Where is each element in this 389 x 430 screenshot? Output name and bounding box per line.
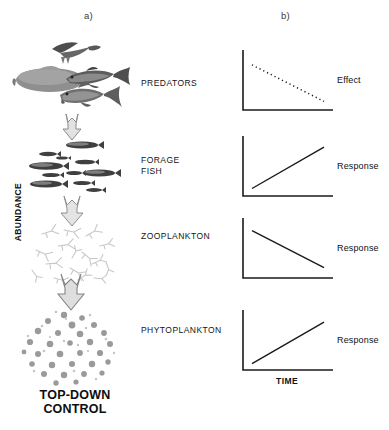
chart-label-effect: Effect — [337, 75, 361, 85]
x-axis-label-time: TIME — [241, 376, 333, 386]
chart-label-response-forage-fish: Response — [337, 161, 379, 171]
arrow-zooplankton-to-phytoplankton — [52, 272, 90, 312]
phytoplankton-illustration — [18, 307, 128, 387]
trophic-label-predators: PREDATORS — [141, 78, 197, 89]
chart-label-response-phytoplankton: Response — [337, 335, 379, 345]
arrow-forage-fish-to-zooplankton — [55, 194, 89, 228]
chart-predators-effect — [241, 50, 333, 112]
forage-fish-illustration — [22, 137, 128, 195]
chart-forage-fish-response — [241, 136, 333, 198]
chart-label-response-zooplankton: Response — [337, 243, 379, 253]
chart-phytoplankton-response — [241, 310, 333, 372]
predators-illustration — [10, 33, 136, 115]
y-axis-label-abundance: ABUNDANCE — [13, 172, 23, 252]
trophic-label-zooplankton: ZOOPLANKTON — [141, 231, 210, 242]
series-line-1 — [252, 147, 324, 188]
panel-letter-a: a) — [84, 10, 93, 21]
series-line-2 — [252, 231, 324, 268]
trophic-cascade-figure: a) b) — [0, 0, 389, 430]
trophic-label-forage-fish: FORAGE FISH — [141, 155, 180, 177]
trophic-label-phytoplankton: PHYTOPLANKTON — [141, 325, 222, 336]
series-line-3 — [252, 322, 324, 363]
panel-letter-b: b) — [281, 10, 290, 21]
chart-zooplankton-response — [241, 218, 333, 280]
series-line-0 — [252, 65, 324, 102]
figure-caption-top-down-control: TOP-DOWN CONTROL — [0, 388, 150, 416]
